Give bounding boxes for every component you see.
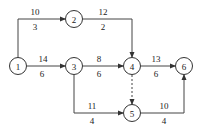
edge-4-6-top: 13 — [152, 54, 162, 64]
edge-3-5-top: 11 — [88, 101, 97, 111]
node-2-label: 2 — [72, 15, 77, 25]
node-3-label: 3 — [72, 62, 77, 72]
edge-3-5-bottom: 4 — [90, 116, 95, 126]
edge-5-6-top: 10 — [160, 101, 170, 111]
node-1: 1 — [10, 58, 27, 75]
edge-1-2 — [18, 19, 65, 58]
node-5: 5 — [124, 105, 141, 122]
edge-3-4-top: 8 — [97, 54, 102, 64]
edge-2-4-top: 12 — [99, 7, 108, 17]
node-5-label: 5 — [130, 109, 135, 119]
node-3: 3 — [66, 58, 83, 75]
node-6-label: 6 — [182, 62, 187, 72]
edge-1-3-bottom: 6 — [40, 69, 45, 79]
edge-1-2-bottom: 3 — [33, 22, 38, 32]
edge-5-6-bottom: 4 — [162, 116, 167, 126]
node-6: 6 — [176, 58, 193, 75]
edge-1-3-top: 14 — [39, 54, 49, 64]
node-4-label: 4 — [130, 62, 135, 72]
edge-3-5 — [74, 75, 123, 113]
node-1-label: 1 — [16, 62, 21, 72]
network-diagram: 10 3 12 2 14 6 8 6 13 6 11 4 10 4 1 2 3 … — [0, 0, 200, 134]
node-2: 2 — [66, 11, 83, 28]
edge-3-4-bottom: 6 — [97, 69, 102, 79]
edge-2-4 — [83, 19, 132, 57]
edge-1-2-top: 10 — [31, 7, 41, 17]
node-4: 4 — [124, 58, 141, 75]
edge-2-4-bottom: 2 — [101, 22, 106, 32]
edge-4-6-bottom: 6 — [154, 69, 159, 79]
